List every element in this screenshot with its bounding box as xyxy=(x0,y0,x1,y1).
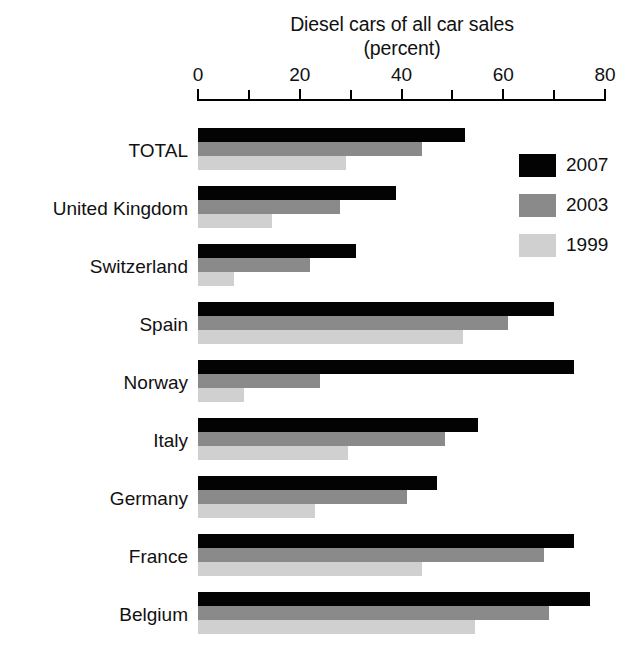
category-label-total: TOTAL xyxy=(6,139,188,162)
bar-1999-france xyxy=(198,562,422,576)
bar-2007-france xyxy=(198,534,574,548)
bar-1999-total xyxy=(198,156,346,170)
category-label-belgium: Belgium xyxy=(6,603,188,626)
bar-2003-france xyxy=(198,548,544,562)
legend-swatch-2003 xyxy=(519,194,556,217)
category-label-united-kingdom: United Kingdom xyxy=(6,197,188,220)
bar-2007-switzerland xyxy=(198,244,356,258)
bar-2007-germany xyxy=(198,476,437,490)
legend-label-1999: 1999 xyxy=(566,233,608,257)
bar-group-belgium: Belgium xyxy=(0,591,644,637)
bar-1999-germany xyxy=(198,504,315,518)
bar-group-italy: Italy xyxy=(0,417,644,463)
bar-2003-norway xyxy=(198,374,320,388)
bar-group-germany: Germany xyxy=(0,475,644,521)
bar-group-norway: Norway xyxy=(0,359,644,405)
legend-swatch-2007 xyxy=(519,154,556,177)
bar-2003-total xyxy=(198,142,422,156)
bar-2007-total xyxy=(198,128,465,142)
bar-1999-united-kingdom xyxy=(198,214,272,228)
legend-item-2003: 2003 xyxy=(519,192,639,222)
bar-group-spain: Spain xyxy=(0,301,644,347)
bar-2007-italy xyxy=(198,418,478,432)
bar-2003-united-kingdom xyxy=(198,200,340,214)
bar-2003-belgium xyxy=(198,606,549,620)
legend-item-1999: 1999 xyxy=(519,232,639,262)
bar-2007-united-kingdom xyxy=(198,186,396,200)
bar-2007-spain xyxy=(198,302,554,316)
bar-1999-spain xyxy=(198,330,463,344)
category-label-italy: Italy xyxy=(6,429,188,452)
category-label-spain: Spain xyxy=(6,313,188,336)
bar-2007-norway xyxy=(198,360,574,374)
bar-1999-italy xyxy=(198,446,348,460)
plot-area: TOTALUnited KingdomSwitzerlandSpainNorwa… xyxy=(0,0,644,669)
bar-1999-belgium xyxy=(198,620,475,634)
legend-label-2003: 2003 xyxy=(566,193,608,217)
bar-2003-germany xyxy=(198,490,407,504)
category-label-norway: Norway xyxy=(6,371,188,394)
bar-2007-belgium xyxy=(198,592,590,606)
chart-root: Diesel cars of all car sales (percent) 0… xyxy=(0,0,644,669)
category-label-germany: Germany xyxy=(6,487,188,510)
bar-2003-italy xyxy=(198,432,445,446)
bar-2003-switzerland xyxy=(198,258,310,272)
bar-1999-norway xyxy=(198,388,244,402)
legend-label-2007: 2007 xyxy=(566,153,608,177)
legend-item-2007: 2007 xyxy=(519,152,639,182)
category-label-switzerland: Switzerland xyxy=(6,255,188,278)
category-label-france: France xyxy=(6,545,188,568)
bar-1999-switzerland xyxy=(198,272,234,286)
bar-group-france: France xyxy=(0,533,644,579)
legend-swatch-1999 xyxy=(519,234,556,257)
bar-2003-spain xyxy=(198,316,508,330)
